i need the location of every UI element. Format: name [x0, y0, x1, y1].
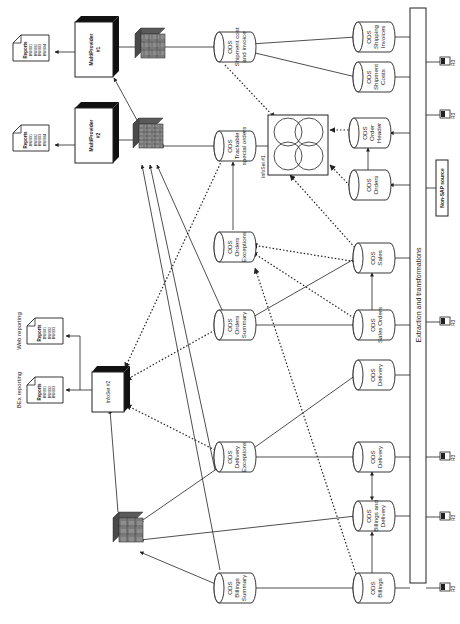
ods-shipment-costs: ODSShipmentCosts: [353, 62, 395, 92]
ods-trackable-special-orders: ODSTrackablespecial orders: [214, 127, 256, 166]
non-sap-source-label: Non-SAP source: [439, 168, 445, 208]
ods-label-line: Billings: [376, 578, 383, 598]
ods-label-line: and invoice: [240, 31, 247, 63]
r3-source-icon: R3: [426, 317, 456, 326]
r3-source-icon: R3: [426, 583, 456, 592]
extraction-bus-label: Extraction and transformations: [415, 247, 422, 342]
ods-label-line: Sales Orders: [376, 307, 383, 343]
ods-label-line: Shipping: [372, 24, 379, 49]
multiprovider-label: MultiProvider: [88, 33, 94, 65]
reports: ReportsBW001BW002BW003BW004ReportsBW001B…: [13, 35, 63, 408]
ods-label-line: ODS: [369, 368, 376, 381]
ods-label-line: ODS: [226, 450, 233, 463]
ods-label-line: ODS: [226, 318, 233, 331]
ods-orders: ODSOrders: [349, 170, 391, 200]
ods-label-line: Trackable: [233, 132, 240, 159]
report-item: BW002: [48, 386, 52, 398]
infoset-2-label: InfoSet #2: [105, 380, 111, 403]
ods-label-line: ODS: [365, 30, 372, 43]
ods-label-line: Exceptions: [240, 232, 247, 262]
r3-label: R3: [450, 454, 456, 461]
report-item: BW003: [52, 327, 56, 339]
ods-label-line: ODS: [226, 40, 233, 53]
r3-label: R3: [450, 59, 456, 66]
report-item: BW002: [34, 134, 38, 146]
ods-label-line: Summary: [240, 574, 247, 601]
report-item: BW002: [34, 44, 38, 56]
report-report-mp2: ReportsBW001BW002BW003BW004: [13, 125, 49, 151]
ods-objects: ODSShippingInvoicesODSShipmentCostsODSOr…: [214, 22, 395, 603]
ods-billings: ODSBillings: [353, 573, 395, 603]
ods-shipment-cost-invoice: ODSShipment costand invoice: [214, 27, 256, 66]
multiproviders: MultiProvider#1MultiProvider#2: [75, 16, 119, 163]
r3-sources: R3R3R3R3R3R3: [426, 57, 456, 592]
report-item: BW001: [43, 327, 47, 339]
report-title: Reports: [37, 383, 42, 400]
report-item: BW001: [29, 44, 33, 56]
ods-label-line: ODS: [226, 139, 233, 152]
report-report-bex: ReportsBW001BW002BW003BEx reporting: [16, 372, 63, 408]
ods-label-line: Header: [375, 123, 382, 143]
non-sap-source: Non-SAP source: [426, 160, 448, 216]
infoset-1: InfoSet #1: [260, 115, 328, 178]
infocubes: [113, 28, 165, 542]
ods-shipping-invoices: ODSShippingInvoices: [353, 22, 395, 52]
ods-delivery-1: ODSDelivery: [353, 360, 395, 390]
report-item: BW004: [43, 134, 47, 146]
ods-label-line: Orders: [233, 238, 240, 257]
report-item: BW001: [29, 134, 33, 146]
ods-label-line: Delivery: [376, 363, 383, 386]
ods-label-line: ODS: [226, 581, 233, 594]
report-caption: Web reporting: [16, 312, 22, 350]
ods-label-line: ODS: [361, 126, 368, 139]
r3-source-icon: R3: [426, 512, 456, 521]
multiprovider-mp2: MultiProvider#2: [75, 102, 119, 163]
r3-label: R3: [450, 585, 456, 592]
ods-label-line: Billings and: [372, 500, 379, 532]
ods-delivery-2: ODSDelivery: [353, 442, 395, 472]
r3-source-icon: R3: [426, 452, 456, 461]
ods-label-line: ODS: [369, 318, 376, 331]
ods-sales-orders: ODSSales Orders: [353, 307, 395, 343]
ods-label-line: Delivery: [376, 445, 383, 468]
ods-sales: ODSSales: [353, 243, 395, 273]
ods-label-line: Sales: [376, 250, 383, 265]
report-title: Reports: [37, 324, 42, 341]
ods-label-line: Order: [368, 125, 375, 141]
ods-label-line: Invoices: [379, 26, 386, 49]
report-item: BW002: [48, 327, 52, 339]
r3-label: R3: [450, 319, 456, 326]
multiprovider-number: #2: [95, 133, 101, 139]
ods-label-line: ODS: [365, 178, 372, 191]
multiprovider-label: MultiProvider: [88, 119, 94, 151]
ods-label-line: Billings: [233, 578, 240, 598]
ods-delivery-exceptions: ODSDeliveryExceptions: [214, 442, 256, 472]
ods-orders-summary: ODSOrdersSummary: [214, 310, 256, 340]
r3-label: R3: [450, 112, 456, 119]
ods-label-line: ODS: [369, 581, 376, 594]
infoset-2: InfoSet #2: [92, 366, 130, 412]
ods-billings-summary: ODSBillingsSummary: [214, 573, 256, 603]
infocube-cube-mid: [133, 118, 163, 148]
report-report-mp1: ReportsBW001BW002BW003BW004: [13, 35, 49, 61]
ods-label-line: Delivery: [233, 445, 240, 468]
report-item: BW003: [38, 44, 42, 56]
report-title: Reports: [23, 41, 28, 58]
ods-label-line: ODS: [365, 509, 372, 522]
data-flow-diagram: Extraction and transformations Non-SAP s…: [0, 0, 460, 624]
multiprovider-number: #1: [95, 47, 101, 53]
r3-source-icon: R3: [426, 57, 456, 66]
report-title: Reports: [23, 131, 28, 148]
multiprovider-mp1: MultiProvider#1: [75, 16, 119, 77]
ods-label-line: Costs: [379, 69, 386, 85]
ods-label-line: Orders: [372, 176, 379, 195]
infocube-cube-bottom: [113, 512, 143, 542]
ods-order-header: ODSOrderHeader: [349, 118, 391, 148]
r3-source-icon: R3: [426, 110, 456, 119]
ods-label-line: Exceptions: [240, 442, 247, 472]
infoset-1-label: InfoSet #1: [260, 155, 266, 178]
extraction-bus: Extraction and transformations: [410, 8, 426, 583]
ods-billings-delivery: ODSBillings andDelivery: [353, 500, 395, 532]
report-report-web: ReportsBW001BW002BW003Web reporting: [16, 312, 63, 350]
report-item: BW003: [52, 386, 56, 398]
